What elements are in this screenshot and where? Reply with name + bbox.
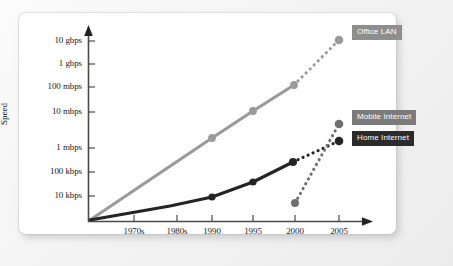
x-tick-label-1970s: 1970s	[110, 226, 158, 236]
x-tick-label-1995: 1995	[229, 226, 277, 236]
series-mobile-internet	[291, 120, 343, 207]
home-internet-point-2000	[289, 158, 297, 166]
y-tick-label-100kbps: 100 kbps	[22, 166, 82, 176]
y-tick-label-100mbps: 100 mbps	[22, 81, 82, 91]
mobile-internet-dotted-path	[295, 124, 339, 203]
y-tick-label-10mbps: 10 mbps	[22, 106, 82, 116]
home-internet-dotted-path	[293, 141, 339, 162]
office-lan-point-2005	[335, 36, 344, 45]
office-lan-dotted-path	[294, 40, 339, 85]
x-tick-label-2005: 2005	[315, 226, 363, 236]
office-lan-point-1995	[249, 107, 257, 115]
legend-item-office-lan: Office LAN	[352, 25, 402, 40]
home-internet-solid-path	[90, 162, 293, 220]
y-tick-label-1mbps: 1 mbps	[22, 142, 82, 152]
home-internet-point-2005	[335, 137, 344, 146]
office-lan-point-2000	[290, 81, 298, 89]
legend-item-mobile-internet: Mobile Internet	[352, 110, 416, 125]
office-lan-point-1990	[208, 134, 216, 142]
y-axis-arrow-icon	[84, 25, 93, 36]
home-internet-point-1990	[208, 193, 215, 200]
y-tick-label-10gbps: 10 gbps	[22, 35, 82, 45]
mobile-internet-point-2000	[291, 199, 299, 207]
mobile-internet-point-2005	[335, 120, 344, 129]
y-tick-label-10kbps: 10 kbps	[22, 190, 82, 200]
legend-item-home-internet: Home Internet	[352, 131, 414, 146]
y-tick-label-1gbps: 1 gbps	[22, 58, 82, 68]
chart-screenshot: Speed 10 gbps 1 gbps 100 mbps 10 mbps 1 …	[0, 0, 453, 266]
x-axis-arrow-icon	[362, 217, 373, 226]
series-office-lan	[90, 36, 343, 220]
y-axis-title: Speed	[0, 103, 9, 125]
x-tick-label-2000: 2000	[271, 226, 319, 236]
home-internet-point-1995	[249, 178, 256, 185]
series-home-internet	[90, 137, 343, 220]
